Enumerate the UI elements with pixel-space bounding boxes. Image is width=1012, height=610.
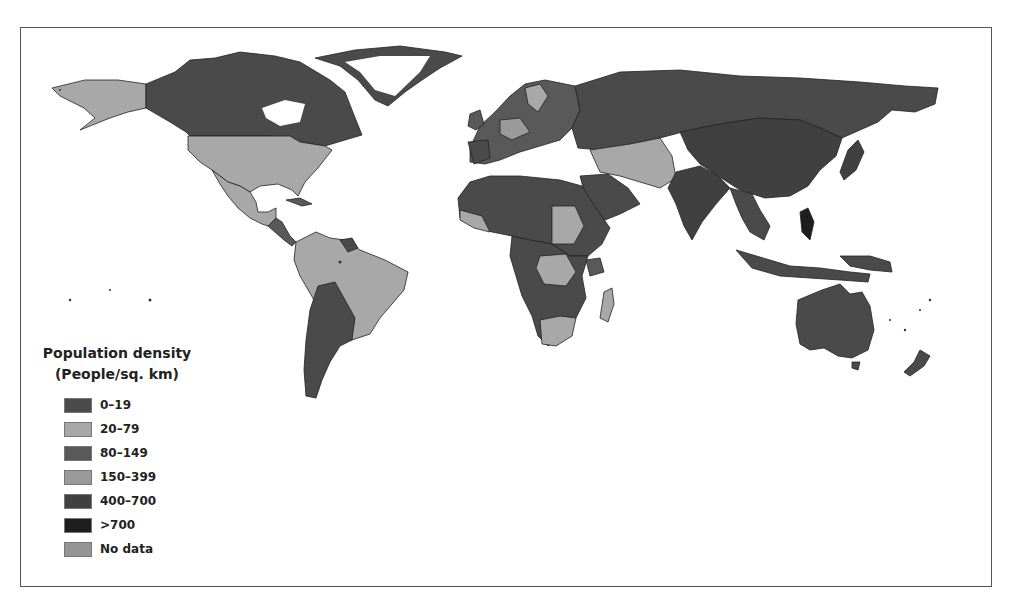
legend-swatch [64, 494, 92, 509]
region-japan [840, 140, 864, 180]
legend-items: 0–19 20–79 80–149 150–399 400–700 >700 N… [64, 393, 196, 561]
region-canada [146, 52, 362, 148]
region-alaska [52, 80, 146, 130]
legend-label: 400–700 [100, 494, 156, 508]
legend-label: 80–149 [100, 446, 148, 460]
legend-swatch [64, 446, 92, 461]
legend-swatch [64, 422, 92, 437]
legend-label: 20–79 [100, 422, 139, 436]
legend-swatch [64, 542, 92, 557]
legend-label: No data [100, 542, 153, 556]
legend-item: 0–19 [64, 393, 196, 417]
legend-subtitle: (People/sq. km) [38, 364, 196, 385]
legend-item: 20–79 [64, 417, 196, 441]
legend: Population density (People/sq. km) 0–19 … [38, 343, 196, 561]
legend-item: 150–399 [64, 465, 196, 489]
legend-swatch [64, 470, 92, 485]
legend-item: 400–700 [64, 489, 196, 513]
region-madagascar [600, 288, 614, 322]
legend-item: >700 [64, 513, 196, 537]
region-new-zealand [904, 350, 930, 376]
legend-item: 80–149 [64, 441, 196, 465]
legend-label: >700 [100, 518, 135, 532]
legend-item: No data [64, 537, 196, 561]
legend-title: Population density [38, 343, 196, 364]
region-australia [796, 284, 874, 358]
legend-label: 0–19 [100, 398, 131, 412]
legend-swatch [64, 398, 92, 413]
region-usa [188, 136, 332, 196]
legend-label: 150–399 [100, 470, 156, 484]
legend-swatch [64, 518, 92, 533]
region-south-africa [540, 316, 576, 346]
region-central-america [268, 218, 296, 246]
